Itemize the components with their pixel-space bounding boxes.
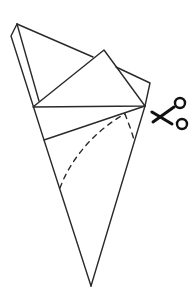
- cone-right-edge: [91, 106, 145, 286]
- cone-band-line: [44, 106, 145, 140]
- diagram-canvas: [0, 0, 196, 294]
- origami-diagram: [0, 0, 196, 294]
- dashed-cut-line-right: [125, 114, 134, 140]
- scissors-icon: [152, 98, 187, 129]
- cone-left-edge: [11, 24, 91, 286]
- folded-flap: [33, 50, 145, 107]
- dashed-cut-line: [60, 114, 125, 188]
- cone-top-edge: [17, 24, 93, 57]
